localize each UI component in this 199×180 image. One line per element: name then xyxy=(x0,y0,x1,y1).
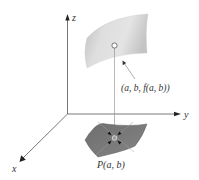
surface-point-label: (a, b, f(a, b)) xyxy=(121,83,170,94)
base-point-label: P(a, b) xyxy=(96,159,125,171)
upper-surface xyxy=(85,14,148,68)
x-axis-label: x xyxy=(11,163,17,174)
x-axis: x xyxy=(11,114,68,174)
surface-point-marker xyxy=(112,43,117,48)
surface-projection-diagram: z y x (a, b, f(a, b)) P(a, b) xyxy=(0,0,199,180)
y-axis: y xyxy=(68,109,190,120)
surface-point-leader xyxy=(123,61,136,80)
z-axis-arrow-icon xyxy=(65,14,69,21)
base-region xyxy=(85,124,147,158)
z-axis: z xyxy=(65,12,76,115)
y-axis-label: y xyxy=(183,109,189,120)
z-axis-label: z xyxy=(71,12,76,23)
base-point-marker xyxy=(112,136,117,141)
leader-arrow-icon xyxy=(123,61,127,66)
y-axis-arrow-icon xyxy=(174,112,181,116)
